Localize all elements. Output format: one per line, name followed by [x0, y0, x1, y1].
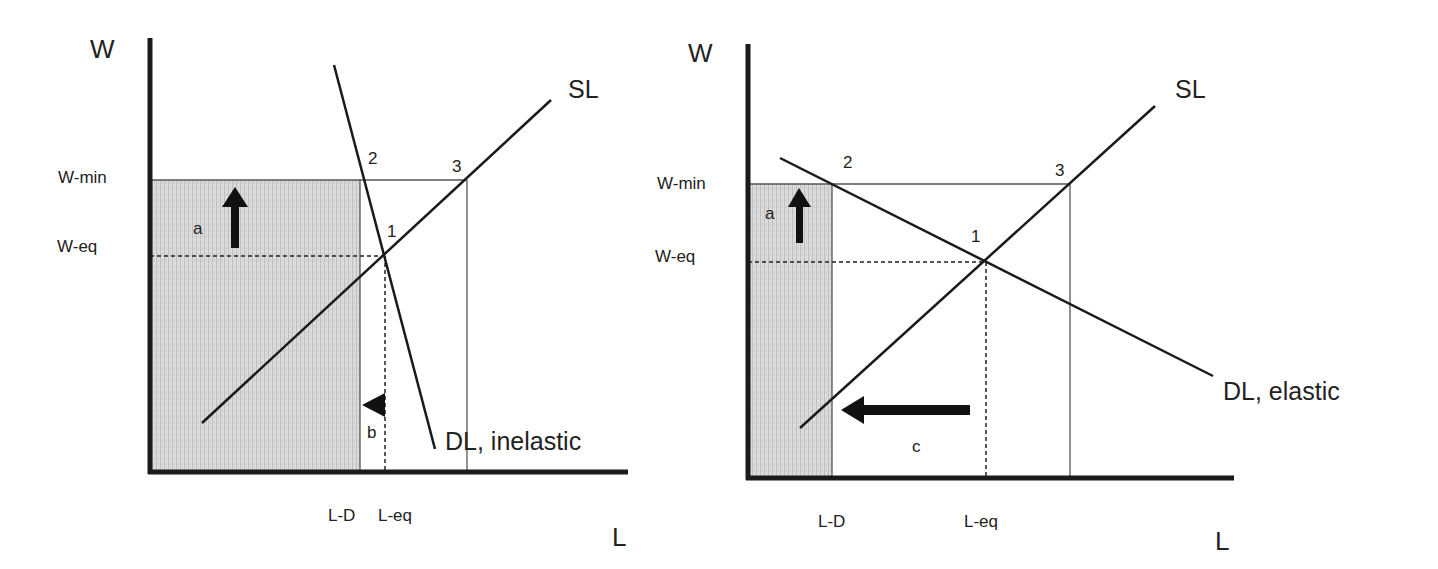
shaded-area-a [748, 184, 832, 478]
arrow-c-label: c [912, 437, 921, 456]
point-3-label: 3 [452, 157, 461, 176]
point-2-label: 2 [368, 149, 377, 168]
arrow-b-label: b [367, 423, 376, 442]
arrow-left-icon [362, 393, 385, 417]
demand-label: DL, elastic [1223, 377, 1340, 405]
l-eq-label: L-eq [378, 506, 412, 525]
area-a-label: a [193, 219, 203, 238]
l-eq-label: L-eq [964, 512, 998, 531]
point-1-label: 1 [971, 227, 980, 246]
demand-label: DL, inelastic [445, 427, 581, 455]
area-a-label: a [765, 204, 775, 223]
y-axis-label: W [688, 38, 713, 68]
w-eq-label: W-eq [57, 237, 97, 256]
w-min-label: W-min [58, 168, 107, 187]
shaded-area-a [150, 180, 360, 472]
l-d-label: L-D [328, 506, 355, 525]
demand-curve-elastic [780, 158, 1213, 376]
left-panel-inelastic: W L W-min W-eq L-D L-eq SL DL, inelastic… [57, 34, 628, 552]
w-eq-label: W-eq [655, 247, 695, 266]
point-2-label: 2 [843, 153, 852, 172]
y-axis-label: W [90, 34, 115, 64]
w-min-label: W-min [657, 174, 706, 193]
supply-label: SL [1175, 75, 1206, 103]
supply-curve [800, 106, 1155, 428]
supply-label: SL [568, 75, 599, 103]
point-1-label: 1 [387, 222, 396, 241]
arrow-left-icon [841, 396, 970, 424]
x-axis-label: L [612, 522, 626, 552]
minimum-wage-diagrams: W L W-min W-eq L-D L-eq SL DL, inelastic… [0, 0, 1438, 569]
point-3-label: 3 [1055, 161, 1064, 180]
right-panel-elastic: W L W-min W-eq L-D L-eq SL DL, elastic 1… [655, 38, 1340, 556]
x-axis-label: L [1215, 526, 1229, 556]
l-d-label: L-D [818, 512, 845, 531]
